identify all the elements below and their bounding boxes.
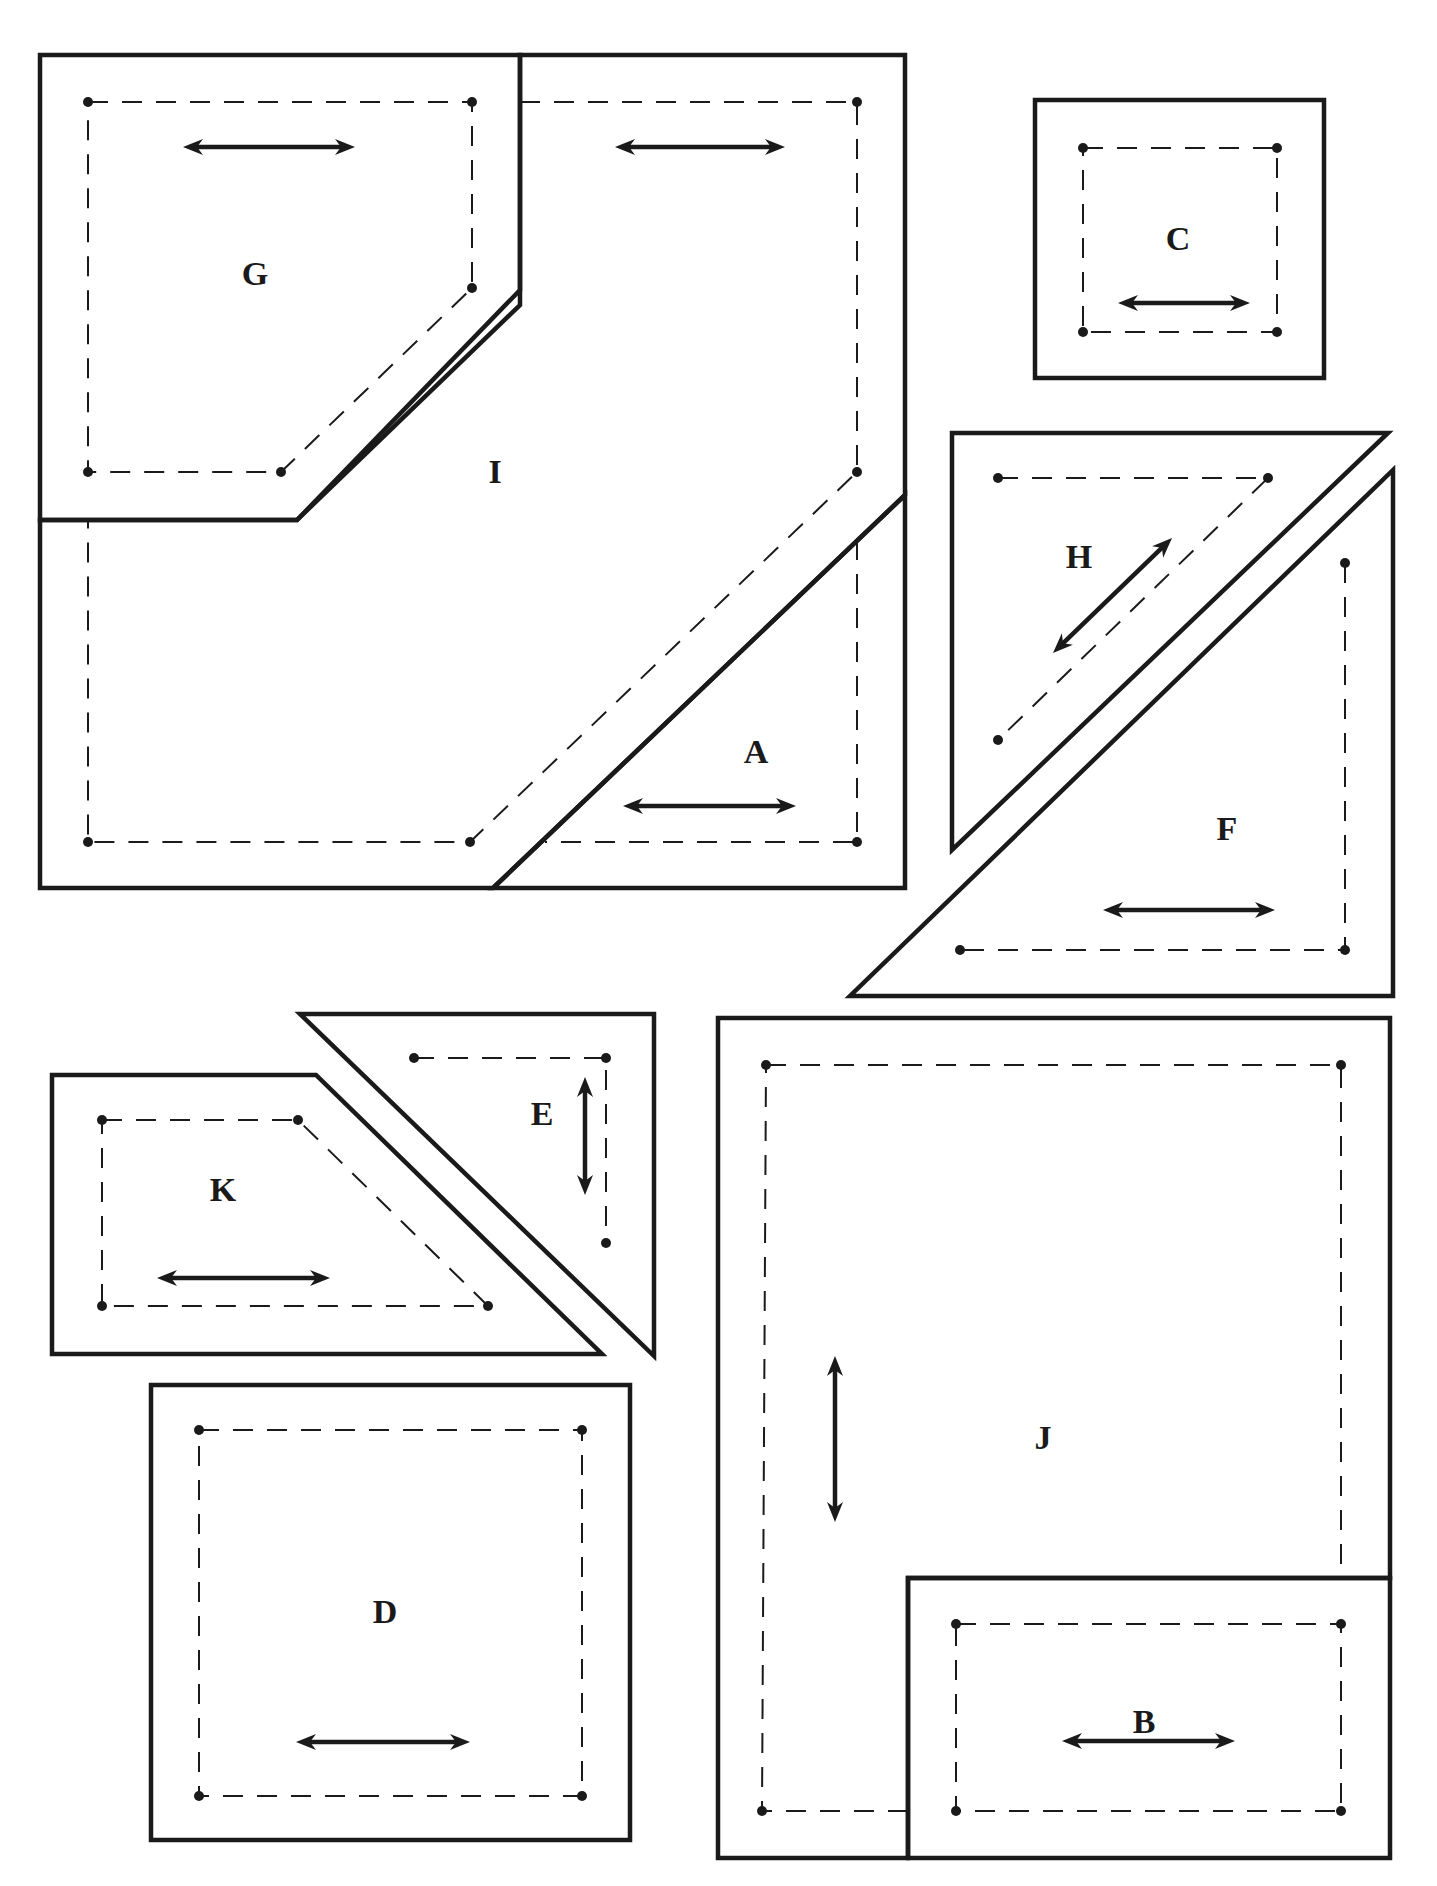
piece-h-cut-outline	[952, 433, 1388, 850]
corner-dot-icon	[1336, 1060, 1346, 1070]
corner-dot-icon	[1336, 1806, 1346, 1816]
piece-c-label: C	[1166, 220, 1191, 257]
piece-k-cut-outline	[52, 1075, 602, 1354]
corner-dot-icon	[601, 1053, 611, 1063]
corner-dot-icon	[761, 1060, 771, 1070]
piece-a-label: A	[744, 733, 769, 770]
corner-dot-icon	[757, 1806, 767, 1816]
piece-j-grainline-arrow-icon	[827, 1356, 843, 1522]
corner-dot-icon	[83, 837, 93, 847]
piece-k-label: K	[210, 1171, 237, 1208]
pattern-canvas: IGACHFEKDJB	[0, 0, 1437, 1886]
corner-dot-icon	[83, 97, 93, 107]
corner-dot-icon	[577, 1425, 587, 1435]
piece-g-label: G	[242, 255, 268, 292]
corner-dot-icon	[1340, 945, 1350, 955]
piece-d-grainline-arrow-icon	[296, 1734, 470, 1750]
corner-dot-icon	[467, 97, 477, 107]
corner-dot-icon	[194, 1791, 204, 1801]
cutting-lines	[40, 55, 1393, 1858]
corner-dot-icon	[409, 1053, 419, 1063]
piece-h-label: H	[1066, 538, 1092, 575]
piece-g-cut-outline	[40, 55, 520, 520]
corner-dot-icon	[852, 837, 862, 847]
corner-dot-icon	[1340, 558, 1350, 568]
corner-dot-icon	[483, 1301, 493, 1311]
piece-a-cut-outline	[493, 495, 905, 888]
piece-j-seam-line	[766, 1065, 1341, 1578]
corner-dot-icon	[993, 473, 1003, 483]
corner-dot-icon	[276, 467, 286, 477]
corner-dot-icon	[951, 1619, 961, 1629]
piece-c-grainline-arrow-icon	[1118, 295, 1250, 311]
corner-dot-icon	[993, 735, 1003, 745]
piece-g-seam-line	[88, 102, 472, 472]
corner-dot-icon	[1336, 1619, 1346, 1629]
piece-j-label: J	[1035, 1419, 1052, 1456]
piece-h-seam-line	[998, 478, 1268, 740]
piece-b-label: B	[1133, 1703, 1156, 1740]
piece-f-grainline-arrow-icon	[1103, 902, 1275, 918]
corner-dot-icon	[1078, 327, 1088, 337]
corner-dot-icon	[852, 467, 862, 477]
piece-j-cut-outline	[718, 1018, 1390, 1858]
corner-dot-icon	[601, 1238, 611, 1248]
corner-dot-icon	[1272, 143, 1282, 153]
corner-dot-icon	[465, 837, 475, 847]
piece-a-grainline-arrow-icon	[623, 798, 796, 814]
piece-d-label: D	[373, 1593, 398, 1630]
piece-e-cut-outline	[300, 1014, 654, 1356]
corner-dot-icon	[1272, 327, 1282, 337]
corner-dot-icon	[83, 467, 93, 477]
piece-i-grainline-arrow-icon	[615, 139, 785, 155]
corner-dot-icon	[467, 283, 477, 293]
corner-dot-icon	[97, 1301, 107, 1311]
corner-dot-icon	[1263, 473, 1273, 483]
corner-dot-icon	[97, 1115, 107, 1125]
corner-dot-icon	[1078, 143, 1088, 153]
piece-e-grainline-arrow-icon	[577, 1077, 593, 1195]
corner-dot-icon	[194, 1425, 204, 1435]
quilt-template-sheet: IGACHFEKDJB	[0, 0, 1437, 1886]
corner-dot-icon	[577, 1791, 587, 1801]
piece-k-grainline-arrow-icon	[157, 1270, 330, 1286]
piece-g-grainline-arrow-icon	[183, 139, 355, 155]
corner-dot-icon	[951, 1806, 961, 1816]
piece-e-label: E	[531, 1095, 554, 1132]
piece-f-seam-line	[960, 563, 1345, 950]
piece-i-label: I	[488, 453, 501, 490]
corner-dot-icon	[852, 97, 862, 107]
piece-f-label: F	[1217, 810, 1238, 847]
corner-dot-icon	[955, 945, 965, 955]
corner-dot-icon	[293, 1115, 303, 1125]
